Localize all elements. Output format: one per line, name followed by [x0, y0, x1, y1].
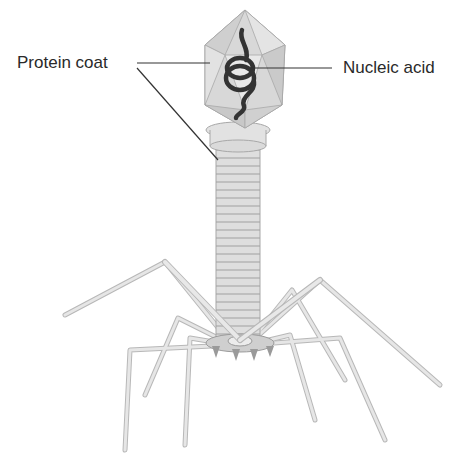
tail-sheath [206, 122, 270, 340]
nucleic-acid-label: Nucleic acid [343, 59, 435, 76]
protein-coat-label: Protein coat [17, 54, 108, 71]
